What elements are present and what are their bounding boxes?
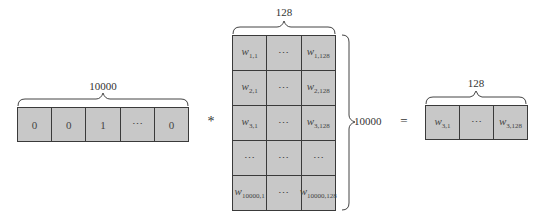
weight-subscript: 2,128 [314, 88, 330, 96]
weight-subscript: 3,128 [314, 123, 330, 131]
weight-subscript: 1,1 [249, 53, 258, 61]
weight-subscript: 3,128 [506, 122, 522, 130]
matrix-cell: w1,128 [301, 35, 336, 71]
matrix-cell: ⋯ [266, 105, 301, 141]
input-vector-cell: 0 [17, 107, 52, 142]
matrix-cell: ⋯ [266, 140, 301, 176]
matrix-col-label: 128 [264, 6, 304, 18]
matrix-row-label: 10000 [354, 115, 394, 127]
multiply-operator: * [202, 114, 220, 130]
matrix-cell: ⋯ [266, 175, 301, 211]
output-size-label: 128 [456, 77, 496, 89]
matrix-cell: w10000,128 [301, 175, 336, 211]
weight-symbol: w1,1 [242, 45, 258, 60]
input-size-label: 10000 [83, 80, 123, 92]
weight-symbol: w10000,128 [300, 185, 337, 200]
input-vector-cell: 1 [85, 107, 120, 142]
weight-symbol: w2,1 [242, 80, 258, 95]
weight-subscript: 1,128 [314, 53, 330, 61]
weight-symbol: w1,128 [307, 45, 330, 60]
input-vector-cell: 0 [154, 107, 189, 142]
weight-subscript: 3,1 [442, 122, 451, 130]
matrix-cell: w2,128 [301, 70, 336, 106]
matrix-cell: w3,128 [301, 105, 336, 141]
matrix-cell: w10000,1 [232, 175, 267, 211]
weight-subscript: 10000,1 [242, 193, 265, 201]
matrix-cell: ⋯ [266, 70, 301, 106]
output-vector-cell: w3,128 [493, 105, 528, 140]
matrix-col-brace [233, 21, 335, 34]
equals-operator: = [396, 113, 412, 129]
matrix-cell: w2,1 [232, 70, 267, 106]
weight-symbol: w3,128 [499, 115, 522, 130]
weight-subscript: 3,1 [249, 123, 258, 131]
output-vector-cell: ⋯ [459, 105, 494, 140]
matrix-cell: ⋯ [266, 35, 301, 71]
output-size-brace [426, 91, 526, 104]
weight-symbol: w10000,1 [235, 185, 265, 200]
input-vector-cell: 0 [51, 107, 86, 142]
weight-subscript: 2,1 [249, 88, 258, 96]
matrix-cell: w1,1 [232, 35, 267, 71]
matrix-cell: ⋯ [232, 140, 267, 176]
input-size-brace [18, 93, 188, 106]
weight-subscript: 10000,128 [307, 193, 337, 201]
weight-symbol: w3,1 [434, 115, 450, 130]
matrix-cell: w3,1 [232, 105, 267, 141]
weight-symbol: w3,1 [242, 115, 258, 130]
input-vector-cell: ⋯ [120, 107, 155, 142]
weight-symbol: w3,128 [307, 115, 330, 130]
weight-symbol: w2,128 [307, 80, 330, 95]
matrix-cell: ⋯ [301, 140, 336, 176]
output-vector-cell: w3,1 [425, 105, 460, 140]
